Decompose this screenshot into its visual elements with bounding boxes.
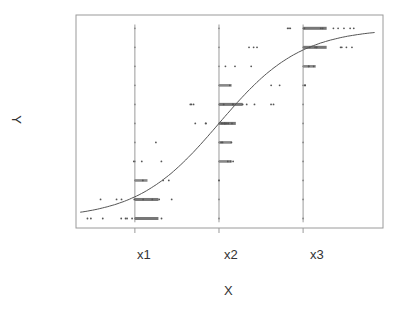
x-tick-label-2: x2: [224, 247, 238, 262]
x-tick-label-3: x3: [310, 247, 324, 262]
x-axis-ticks: [135, 228, 303, 233]
data-points: [87, 27, 355, 220]
x-axis-label: X: [224, 283, 233, 298]
x-tick-label-1: x1: [137, 247, 151, 262]
plot-frame: [76, 15, 383, 228]
chart-canvas: [0, 0, 403, 309]
y-axis-label: Y: [9, 115, 24, 124]
